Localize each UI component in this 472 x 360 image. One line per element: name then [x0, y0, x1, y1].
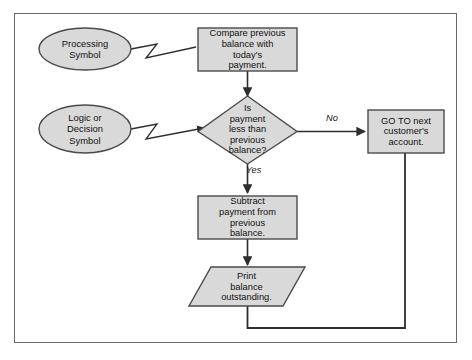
node-decision-shape [198, 96, 297, 164]
leader-logic-annotation [131, 124, 204, 139]
diagram-canvas: Compare previous balance with today's pa… [0, 0, 472, 360]
node-subtract-shape [198, 196, 297, 239]
node-compare-shape [198, 28, 297, 71]
flowchart-graphics [0, 0, 472, 360]
leader-processing-annotation [131, 44, 196, 58]
annotation-processing-shape [39, 28, 131, 70]
annotation-logic-shape [39, 105, 131, 153]
node-goto-shape [368, 110, 444, 153]
node-print-shape [189, 267, 305, 306]
edge-label-yes: Yes [246, 165, 261, 175]
edge-label-no: No [326, 113, 338, 123]
